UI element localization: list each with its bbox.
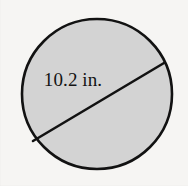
circle-shape <box>22 19 172 169</box>
circle-diagram-svg <box>0 0 188 186</box>
geometry-figure: 10.2 in. <box>0 0 188 186</box>
chord-measure-label: 10.2 in. <box>38 70 108 90</box>
